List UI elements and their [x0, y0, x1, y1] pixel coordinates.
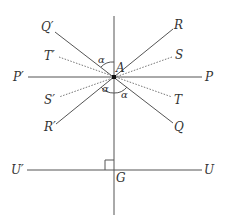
geometry-diagram: Q′ R T′ S P′ P S′ T R′ Q U′ U A G α α α [0, 0, 225, 223]
label-a: A [115, 61, 125, 75]
alpha-lower-right: α [121, 89, 128, 100]
label-u-prime: U′ [11, 163, 24, 177]
right-angle-marker [105, 160, 114, 170]
label-t-prime: T′ [44, 49, 55, 63]
point-a [112, 75, 116, 79]
label-p: P [204, 70, 214, 84]
label-q-prime: Q′ [41, 20, 54, 34]
label-u: U [204, 163, 215, 177]
alpha-upper-left: α [98, 54, 105, 65]
label-r-prime: R′ [43, 120, 56, 134]
label-g: G [116, 171, 126, 185]
label-r: R [173, 18, 183, 32]
label-s-prime: S′ [44, 93, 55, 107]
label-s: S [175, 48, 183, 62]
alpha-lower-left: α [102, 83, 109, 94]
label-t: T [174, 93, 183, 107]
label-p-prime: P′ [12, 70, 24, 84]
label-q: Q [174, 120, 184, 134]
